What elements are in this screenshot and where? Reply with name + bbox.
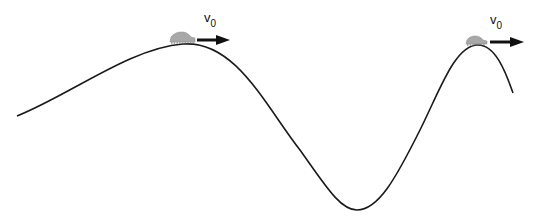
velocity-arrow-icon: [197, 35, 230, 45]
velocity-arrow-icon: [490, 37, 524, 47]
velocity-label-2: v0: [490, 12, 503, 31]
track-curve: [17, 44, 513, 210]
car-icon: [466, 36, 487, 45]
car-icon: [170, 32, 195, 43]
velocity-label-1: v0: [204, 10, 217, 29]
track-diagram: v0 v0: [0, 0, 539, 222]
